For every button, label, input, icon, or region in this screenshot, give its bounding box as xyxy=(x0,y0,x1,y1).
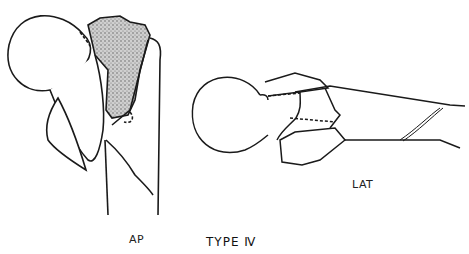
lat-view xyxy=(192,73,465,165)
femoral-shaft xyxy=(150,38,161,215)
ap-label: AP xyxy=(129,233,144,246)
femoral-head-lat xyxy=(192,77,268,152)
fracture-diagram xyxy=(0,0,469,254)
ap-view xyxy=(8,16,161,215)
figure-title: TYPE Ⅳ xyxy=(206,235,256,249)
lat-label: LAT xyxy=(352,178,373,191)
